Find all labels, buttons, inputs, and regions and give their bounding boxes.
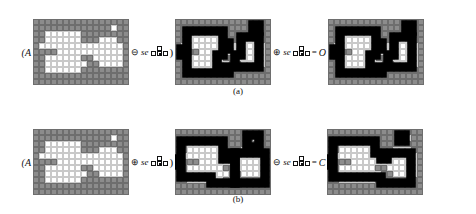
panel-b1	[33, 129, 129, 195]
pixel-cell	[265, 79, 271, 85]
panel-a1	[33, 19, 129, 85]
se-label: se	[141, 157, 149, 167]
dilation-symbol: ⊕	[273, 47, 281, 57]
panel-a3	[328, 19, 424, 85]
caption-b: (b)	[0, 194, 476, 204]
erosion-symbol: ⊖	[131, 47, 139, 57]
operator-a1: ⊖ se )	[129, 46, 175, 58]
pixel-grid	[33, 19, 129, 85]
dilation-symbol: ⊕	[131, 157, 139, 167]
pixel-grid	[328, 19, 424, 85]
operator-b1: ⊕ se )	[129, 156, 175, 168]
pixel-grid	[33, 129, 129, 195]
morphology-figure: (A ⊖ se ) ⊕ se = O (a) (A ⊕ se	[0, 0, 476, 214]
erosion-symbol: ⊖	[273, 157, 281, 167]
structuring-element-icon	[151, 46, 168, 58]
close-paren-a: )	[170, 46, 174, 58]
lead-label-a: (A	[0, 47, 33, 58]
structuring-element-icon	[293, 46, 310, 58]
pixel-grid	[175, 19, 271, 85]
se-label: se	[283, 157, 291, 167]
pixel-cell	[123, 79, 129, 85]
structuring-element-icon	[293, 156, 310, 168]
pixel-grid	[175, 129, 271, 195]
pixel-grid	[327, 129, 423, 195]
caption-a: (a)	[0, 86, 476, 96]
panel-a2	[175, 19, 271, 85]
close-paren-b: )	[170, 156, 174, 168]
lead-label-b: (A	[0, 157, 33, 168]
operator-b2: ⊖ se = C	[271, 156, 327, 168]
panel-b3	[327, 129, 423, 195]
result-label-O: O	[319, 47, 326, 58]
structuring-element-icon	[151, 156, 168, 168]
equals-sign-a: =	[312, 47, 317, 57]
result-label-C: C	[319, 157, 326, 168]
se-label: se	[141, 47, 149, 57]
panel-b2	[175, 129, 271, 195]
equals-sign-b: =	[312, 157, 317, 167]
se-label: se	[283, 47, 291, 57]
operator-a2: ⊕ se = O	[271, 46, 328, 58]
pixel-cell	[418, 79, 424, 85]
